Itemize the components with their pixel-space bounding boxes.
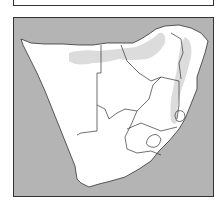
legend-box (13, 0, 214, 6)
land-mass (21, 25, 208, 187)
map-frame (13, 17, 214, 197)
southern-africa-map (14, 18, 214, 197)
